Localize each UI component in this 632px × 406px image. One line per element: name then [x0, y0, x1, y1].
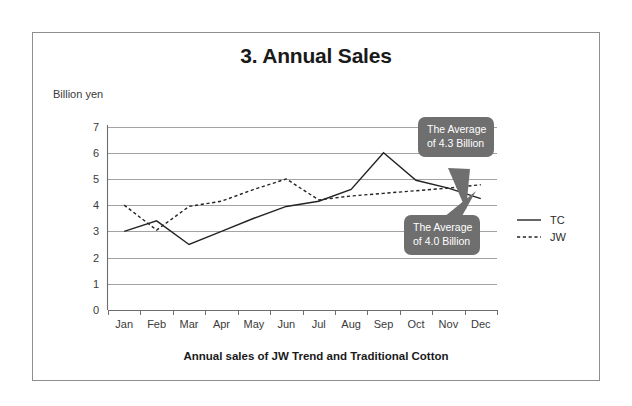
- chart-page: 3. Annual Sales Billion yen 01234567 Jan…: [0, 0, 632, 406]
- callout-line-2: of 4.3 Billion: [427, 137, 485, 151]
- callout-tail-tc: [434, 191, 494, 251]
- x-tick-label: Oct: [407, 318, 424, 330]
- x-tick-label: Jul: [312, 318, 326, 330]
- legend-label-tc: TC: [550, 214, 565, 226]
- x-tick-label: Dec: [471, 318, 491, 330]
- callout-line-1: The Average: [427, 123, 485, 137]
- x-tick-label: May: [243, 318, 264, 330]
- x-tick-label: Sep: [374, 318, 394, 330]
- x-tick-label: Jan: [115, 318, 133, 330]
- figure-caption: Annual sales of JW Trend and Traditional…: [0, 350, 632, 362]
- x-tick-label: Mar: [180, 318, 199, 330]
- y-tick-labels-group: 01234567: [93, 121, 99, 317]
- y-tick-label: 6: [93, 147, 99, 159]
- legend-item-jw[interactable]: JW: [516, 228, 566, 245]
- y-tick-label: 4: [93, 199, 99, 211]
- x-tick-label: Apr: [213, 318, 230, 330]
- x-tick-label: Feb: [147, 318, 166, 330]
- y-tick-label: 5: [93, 173, 99, 185]
- callout-average-jw: The Average of 4.3 Billion: [418, 117, 494, 157]
- x-tick-label: Nov: [439, 318, 459, 330]
- y-tick-label: 0: [93, 304, 99, 316]
- y-tick-label: 7: [93, 121, 99, 133]
- legend-label-jw: JW: [550, 231, 566, 243]
- legend-swatch-tc: [516, 215, 542, 225]
- legend: TC JW: [516, 211, 566, 245]
- legend-swatch-jw: [516, 232, 542, 242]
- y-tick-label: 1: [93, 278, 99, 290]
- y-tick-label: 2: [93, 252, 99, 264]
- legend-item-tc[interactable]: TC: [516, 211, 566, 228]
- chart-plot-area: 01234567 JanFebMarAprMayJunJulAugSepOctN…: [0, 0, 632, 406]
- x-tick-label: Jun: [277, 318, 295, 330]
- y-tick-label: 3: [93, 225, 99, 237]
- x-tick-label: Aug: [341, 318, 361, 330]
- x-tick-labels-group: JanFebMarAprMayJunJulAugSepOctNovDec: [115, 318, 491, 330]
